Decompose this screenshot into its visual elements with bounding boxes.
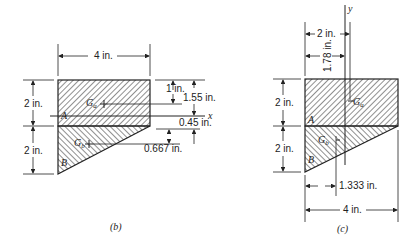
figure-c: y 2 in. 1.78 in. 2 in. 2 in. Ga A B Gb bbox=[273, 3, 398, 235]
figure-b: 4 in. 2 in. 2 in. Ga x A B Gb 1 in. bbox=[23, 44, 216, 233]
lower-height-label-b: 2 in. bbox=[24, 145, 43, 156]
dim-0-667in: 0.667 in. bbox=[144, 143, 182, 154]
region-a-label-b: A bbox=[60, 110, 68, 121]
dim-0-45in: 0.45 in. bbox=[179, 117, 212, 128]
width-label-b: 4 in. bbox=[94, 50, 113, 61]
rectangle-a-c bbox=[305, 79, 398, 126]
upper-height-label-c: 2 in. bbox=[275, 97, 294, 108]
width-label-c: 4 in. bbox=[343, 204, 362, 215]
dim-1-333in: 1.333 in. bbox=[339, 180, 377, 191]
composite-area-diagram: 4 in. 2 in. 2 in. Ga x A B Gb 1 in. bbox=[0, 0, 419, 247]
dim-1-55in: 1.55 in. bbox=[183, 92, 216, 103]
triangle-b-c bbox=[305, 126, 398, 172]
dim-2in-top: 2 in. bbox=[317, 28, 336, 39]
region-a-label-c: A bbox=[307, 114, 315, 125]
dim-1-78in: 1.78 in. bbox=[322, 39, 333, 72]
triangle-b bbox=[58, 126, 150, 174]
y-axis-label: y bbox=[347, 3, 353, 14]
upper-height-label-b: 2 in. bbox=[24, 98, 43, 109]
caption-c: (c) bbox=[337, 223, 349, 235]
region-b-label-c: B bbox=[308, 154, 314, 165]
lower-height-label-c: 2 in. bbox=[275, 143, 294, 154]
region-b-label-b: B bbox=[61, 157, 67, 168]
caption-b: (b) bbox=[110, 221, 122, 233]
